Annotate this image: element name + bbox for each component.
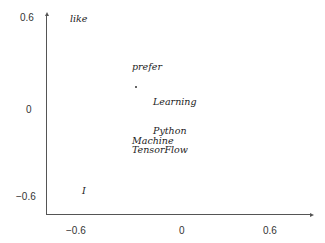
- x-tick-0.6: 0.6: [263, 225, 277, 236]
- x-axis: [46, 214, 311, 215]
- point-prefer: prefer: [132, 61, 162, 72]
- y-axis: [46, 15, 47, 215]
- point-like: like: [70, 13, 87, 24]
- point-period: [135, 86, 137, 88]
- point-learning: Learning: [153, 96, 197, 107]
- x-tick-0: 0: [179, 225, 185, 236]
- point-i: I: [82, 185, 86, 196]
- y-axis-arrow-icon: [45, 12, 49, 16]
- y-tick-neg0.6: −0.6: [16, 191, 36, 202]
- y-tick-0: 0: [26, 104, 32, 115]
- x-tick-neg0.6: −0.6: [66, 225, 86, 236]
- x-axis-arrow-icon: [310, 213, 314, 217]
- point-tensorflow: TensorFlow: [132, 144, 188, 155]
- y-tick-0.6: 0.6: [20, 12, 34, 23]
